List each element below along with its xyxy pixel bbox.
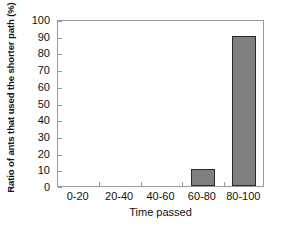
x-axis-tick-label: 0-20: [67, 190, 89, 203]
bar-slot: [99, 21, 140, 186]
y-axis-title-text: Ratio of ants that used the shorter path…: [5, 2, 16, 192]
bar-slot: [58, 21, 99, 186]
x-axis-title: Time passed: [57, 206, 264, 218]
bar-slot: [141, 21, 182, 186]
y-axis-tick-label: 0: [44, 182, 50, 193]
bar: [191, 169, 215, 186]
bar-slot: [224, 21, 265, 186]
bar: [232, 36, 256, 186]
y-axis-tick-label: 50: [38, 98, 50, 109]
y-axis-tick-labels: 0102030405060708090100: [20, 20, 53, 187]
y-axis-tick-label: 30: [38, 131, 50, 142]
y-axis-title: Ratio of ants that used the shorter path…: [0, 0, 20, 195]
x-axis-tick-label: 80-100: [226, 190, 260, 203]
bar-series: [58, 21, 263, 186]
y-axis-tick-label: 60: [38, 81, 50, 92]
y-axis-tick-label: 20: [38, 148, 50, 159]
y-axis-tick-label: 100: [32, 15, 50, 26]
plot-area: [57, 20, 264, 187]
x-axis-tick-label: 60-80: [188, 190, 216, 203]
y-axis-tick-label: 70: [38, 65, 50, 76]
bar-slot: [182, 21, 223, 186]
y-axis-tick-label: 90: [38, 31, 50, 42]
x-axis-tick-label: 20-40: [105, 190, 133, 203]
x-axis-tick-labels: 0-2020-4040-6060-8080-100: [57, 190, 264, 206]
y-axis-tick-label: 40: [38, 115, 50, 126]
x-axis-tick-label: 40-60: [146, 190, 174, 203]
bar-chart-figure: Ratio of ants that used the shorter path…: [0, 0, 288, 238]
y-axis-tick-label: 10: [38, 165, 50, 176]
y-axis-tick-mark: [58, 187, 62, 188]
y-axis-tick-label: 80: [38, 48, 50, 59]
